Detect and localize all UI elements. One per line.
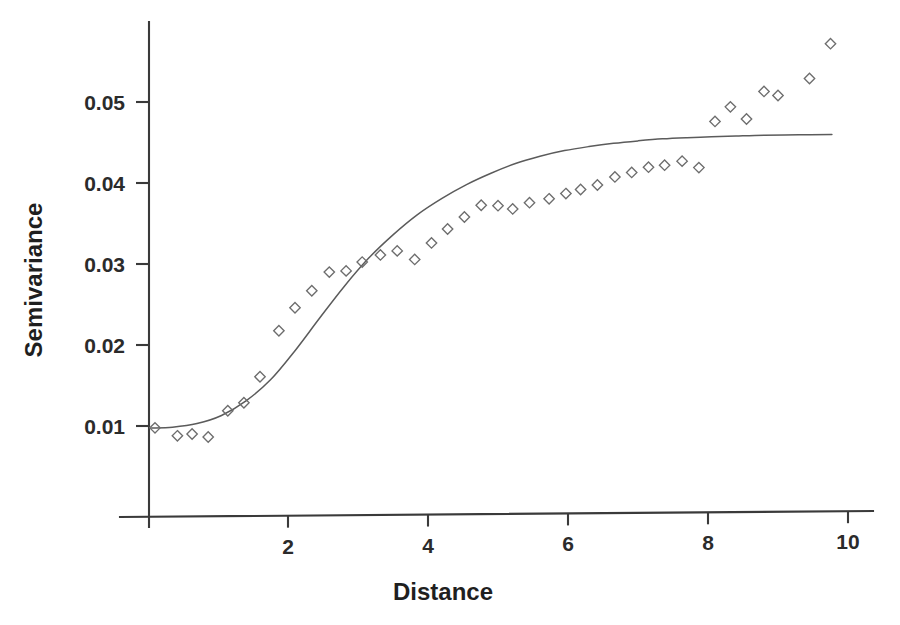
data-point-marker [524,197,534,207]
data-point-marker [274,326,284,336]
x-tick-label: 10 [836,530,859,553]
model-curve-path [152,134,832,428]
data-point-marker [725,102,735,112]
x-tick-label: 6 [562,532,574,555]
data-point-marker [561,188,571,198]
y-tick-label: 0.02 [84,334,125,357]
data-point-marker [442,224,452,234]
data-point-marker [426,238,436,248]
data-point-marker [324,267,334,277]
data-point-marker [203,432,213,442]
y-tick-label: 0.01 [84,415,125,438]
data-point-marker [643,162,653,172]
data-point-marker [341,266,351,276]
data-point-marker [759,86,769,96]
data-point-marker [825,38,835,48]
fitted-model-curve [152,134,832,428]
data-point-marker [677,156,687,166]
data-point-marker [410,254,420,264]
data-point-marker [172,431,182,441]
y-tick-label: 0.04 [84,172,125,195]
data-point-marker [255,372,265,382]
data-point-marker [710,116,720,126]
y-tick-label: 0.05 [84,91,125,114]
data-point-marker [773,90,783,100]
axis-tick-labels: 0.010.020.030.040.05246810 [84,91,860,558]
axis-ticks [136,102,848,528]
data-point-marker [375,250,385,260]
y-axis-title: Semivariance [20,203,47,358]
data-point-marker [627,167,637,177]
data-point-marker [610,172,620,182]
x-tick-label: 8 [702,531,714,554]
data-point-marker [804,73,814,83]
x-axis-line [120,511,873,517]
axes [120,22,873,527]
data-point-marker [392,246,402,256]
plot-area: 0.010.020.030.040.05246810 Distance Semi… [0,0,900,625]
data-point-series [150,38,836,442]
data-point-marker [290,303,300,313]
x-axis-title: Distance [393,578,493,605]
x-tick-label: 4 [422,534,434,557]
data-point-marker [592,180,602,190]
data-point-marker [741,114,751,124]
semivariogram-chart: 0.010.020.030.040.05246810 Distance Semi… [0,0,900,625]
data-point-marker [307,286,317,296]
y-tick-label: 0.03 [84,253,125,276]
data-point-marker [493,200,503,210]
x-tick-label: 2 [282,535,294,558]
data-point-marker [508,204,518,214]
data-point-marker [459,212,469,222]
data-point-marker [187,429,197,439]
data-point-marker [694,162,704,172]
data-point-marker [575,184,585,194]
data-point-marker [476,200,486,210]
data-point-marker [659,160,669,170]
data-point-marker [544,194,554,204]
